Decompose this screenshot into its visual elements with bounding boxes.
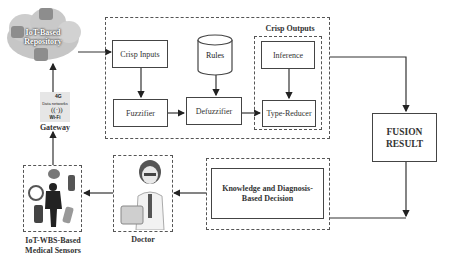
type-reducer-box: Type-Reducer: [262, 100, 316, 127]
wifi-text: Wi-Fi: [40, 115, 70, 120]
doctor-icon: [118, 158, 170, 230]
repository-label: IoT-Based Repository: [3, 28, 83, 46]
rules-label: Rules: [197, 51, 233, 60]
wifi-antenna-icon: ((·)): [51, 106, 63, 114]
inference-box: Inference: [261, 41, 315, 69]
crisp-outputs-label: Crisp Outputs: [258, 24, 322, 33]
fuzzifier-box: Fuzzifier: [113, 99, 168, 127]
decision-box: Knowledge and Diagnosis- Based Decision: [211, 168, 324, 219]
gateway-label: Gateway: [36, 123, 74, 132]
gateway-panel: 4G Data networks ((·)) Wi-Fi: [40, 92, 70, 122]
medical-sensors-icon: [26, 167, 80, 230]
doctor-illustration: [118, 158, 170, 230]
sensors-label: IoT-WBS-Based Medical Sensors: [16, 236, 90, 256]
defuzzifier-box: Defuzzifier: [186, 97, 242, 125]
sensors-illustration: [26, 167, 80, 230]
iot-repository: IoT-Based Repository: [3, 4, 83, 66]
doctor-label: Doctor: [113, 235, 173, 244]
crisp-inputs-box: Crisp Inputs: [112, 40, 168, 68]
network-4g-icon: 4G: [55, 93, 62, 99]
rules-database: Rules: [197, 34, 233, 76]
fusion-result-box: FUSION RESULT: [372, 113, 437, 162]
